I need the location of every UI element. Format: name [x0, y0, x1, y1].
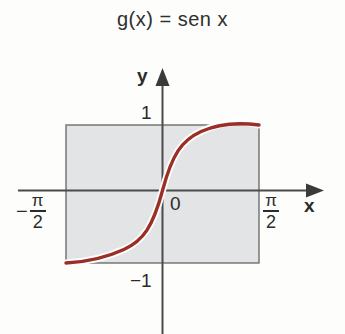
fraction-stack: π 2 — [30, 192, 46, 231]
x-tick-label-pi-over-2: π 2 — [263, 192, 279, 231]
y-axis-arrowhead — [156, 68, 170, 86]
fraction-denominator: 2 — [264, 212, 278, 231]
y-tick-label-1: 1 — [141, 103, 152, 122]
plot-canvas — [0, 0, 345, 334]
fraction-numerator: π — [263, 192, 279, 210]
fraction-numerator: π — [30, 192, 46, 210]
y-tick-label-minus-1: −1 — [130, 271, 152, 290]
fraction-stack: π 2 — [263, 192, 279, 231]
minus-sign: − — [16, 201, 28, 223]
fraction-denominator: 2 — [31, 212, 45, 231]
sine-function-figure: g(x) = sen x y x 0 1 −1 − π 2 — [0, 0, 345, 334]
origin-tick-label: 0 — [170, 194, 181, 213]
x-tick-label-minus-pi-over-2: − π 2 — [16, 192, 46, 231]
x-axis-label: x — [304, 196, 315, 215]
y-axis-label: y — [137, 66, 148, 85]
